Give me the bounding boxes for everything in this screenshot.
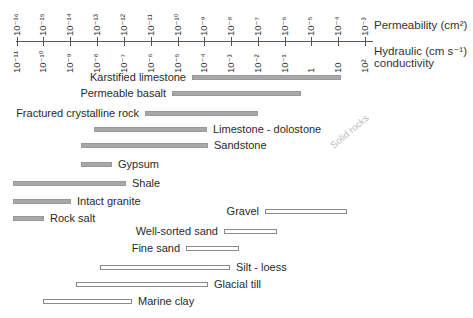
axis-tick [70, 37, 71, 46]
conductivity-tick-label: 10⁻⁴ [198, 53, 209, 73]
conductivity-tick-label: 10² [359, 59, 370, 73]
conductivity-tick-label: 10⁻¹¹ [11, 51, 22, 73]
rock-label: Karstified limestone [90, 71, 186, 83]
permeability-tick-label: 10⁻¹³ [91, 14, 102, 36]
axis-tick [43, 37, 44, 46]
range-bar [94, 127, 207, 132]
range-bar [13, 216, 44, 221]
conductivity-tick-label: 10 [332, 62, 343, 73]
axis-tick [231, 37, 232, 46]
range-bar [265, 209, 347, 214]
permeability-tick-label: 10⁻³ [359, 17, 370, 36]
range-bar [186, 246, 239, 251]
range-bar [81, 162, 112, 167]
axis-tick [285, 37, 286, 46]
range-bar [13, 181, 126, 186]
range-bar [172, 91, 301, 96]
permeability-tick-label: 10⁻⁴ [332, 16, 343, 36]
range-bar [43, 299, 132, 304]
rock-label: Intact granite [77, 195, 141, 207]
axis-tick [97, 37, 98, 46]
rock-label: Shale [132, 177, 160, 189]
permeability-axis-title: Permeability (cm²) [374, 19, 467, 31]
range-bar [100, 265, 230, 270]
range-bar [224, 229, 277, 234]
axis-tick [151, 37, 152, 46]
axis-tick [124, 37, 125, 46]
permeability-tick-label: 10⁻⁵ [305, 16, 316, 36]
axis-tick [338, 37, 339, 46]
range-bar [13, 199, 71, 204]
rock-label: Well-sorted sand [136, 225, 218, 237]
rock-label: Gypsum [118, 158, 159, 170]
range-bar [192, 75, 341, 80]
conductivity-axis-title: Hydraulic (cm s⁻¹) [374, 44, 467, 58]
permeability-tick-label: 10⁻⁶ [279, 17, 290, 37]
conductivity-tick-label: 10⁻¹ [279, 54, 290, 73]
range-bar [81, 143, 208, 148]
permeability-tick-label: 10⁻¹⁶ [11, 13, 22, 36]
rock-label: Limestone - dolostone [213, 123, 321, 135]
permeability-tick-label: 10⁻⁷ [252, 17, 263, 36]
rock-label: Fractured crystalline rock [16, 107, 139, 119]
axis-tick [204, 37, 205, 46]
rock-label: Gravel [227, 205, 259, 217]
axis-tick [365, 37, 366, 46]
conductivity-tick-label: 10⁻¹⁰ [37, 50, 48, 73]
rock-label: Rock salt [50, 212, 95, 224]
permeability-tick-label: 10⁻⁸ [225, 16, 236, 36]
conductivity-tick-label: 10⁻⁹ [64, 53, 75, 73]
permeability-tick-label: 10⁻⁹ [198, 16, 209, 36]
axis-tick [258, 37, 259, 46]
rock-label: Glacial till [214, 278, 261, 290]
conductivity-tick-label: 10⁻³ [225, 54, 236, 73]
conductivity-axis-title-line2: conductivity [374, 57, 434, 69]
permeability-tick-label: 10⁻¹⁴ [64, 13, 75, 36]
axis-tick [178, 37, 179, 46]
conductivity-tick-label: 10⁻² [252, 54, 263, 73]
rock-label: Fine sand [132, 242, 180, 254]
rock-label: Marine clay [138, 295, 194, 307]
rock-label: Permeable basalt [80, 87, 166, 99]
permeability-tick-label: 10⁻¹² [118, 14, 129, 36]
rock-label: Silt - loess [236, 261, 287, 273]
rock-label: Sandstone [214, 139, 267, 151]
axis-tick [311, 37, 312, 46]
range-bar [145, 111, 258, 116]
axis-tick [17, 37, 18, 46]
range-bar [76, 282, 208, 287]
permeability-tick-label: 10⁻¹⁵ [37, 13, 48, 36]
solid-rocks-label: Solid rocks [328, 112, 371, 150]
permeability-tick-label: 10⁻¹⁰ [172, 13, 183, 36]
permeability-tick-label: 10⁻¹¹ [145, 14, 156, 36]
conductivity-tick-label: 1 [305, 68, 316, 73]
